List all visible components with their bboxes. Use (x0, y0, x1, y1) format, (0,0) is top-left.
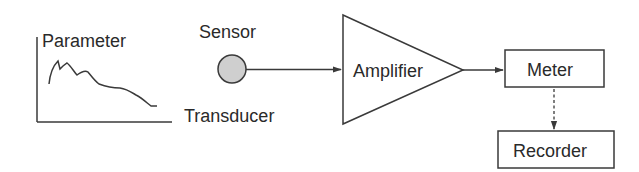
amplifier-node: Amplifier (343, 15, 463, 124)
meter-label: Meter (527, 60, 573, 80)
meter-node: Meter (505, 50, 604, 87)
parameter-label: Parameter (42, 31, 126, 51)
transducer-label: Transducer (184, 106, 274, 126)
recorder-node: Recorder (498, 131, 614, 168)
parameter-curve (49, 61, 157, 106)
sensor-label: Sensor (199, 22, 256, 42)
amplifier-label: Amplifier (353, 61, 423, 81)
sensor-node: Sensor (199, 22, 256, 83)
signal-chain-diagram: Parameter Transducer Sensor Amplifier Me… (0, 0, 639, 172)
sensor-circle-icon (218, 55, 246, 83)
recorder-label: Recorder (513, 141, 587, 161)
